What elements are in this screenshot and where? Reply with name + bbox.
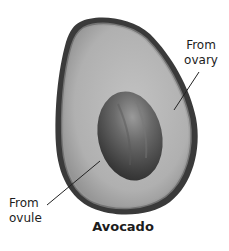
label-ovule-line-2: ovule [9, 211, 51, 226]
figure-caption: Avocado [82, 219, 164, 234]
label-from-ovary: From ovary [178, 38, 224, 68]
avocado-diagram: From ovary From ovule Avocado [0, 0, 229, 251]
label-ovule-line-1: From [9, 196, 51, 211]
label-ovary-line-2: ovary [178, 53, 224, 68]
label-from-ovule: From ovule [9, 196, 51, 226]
label-ovary-line-1: From [178, 38, 224, 53]
